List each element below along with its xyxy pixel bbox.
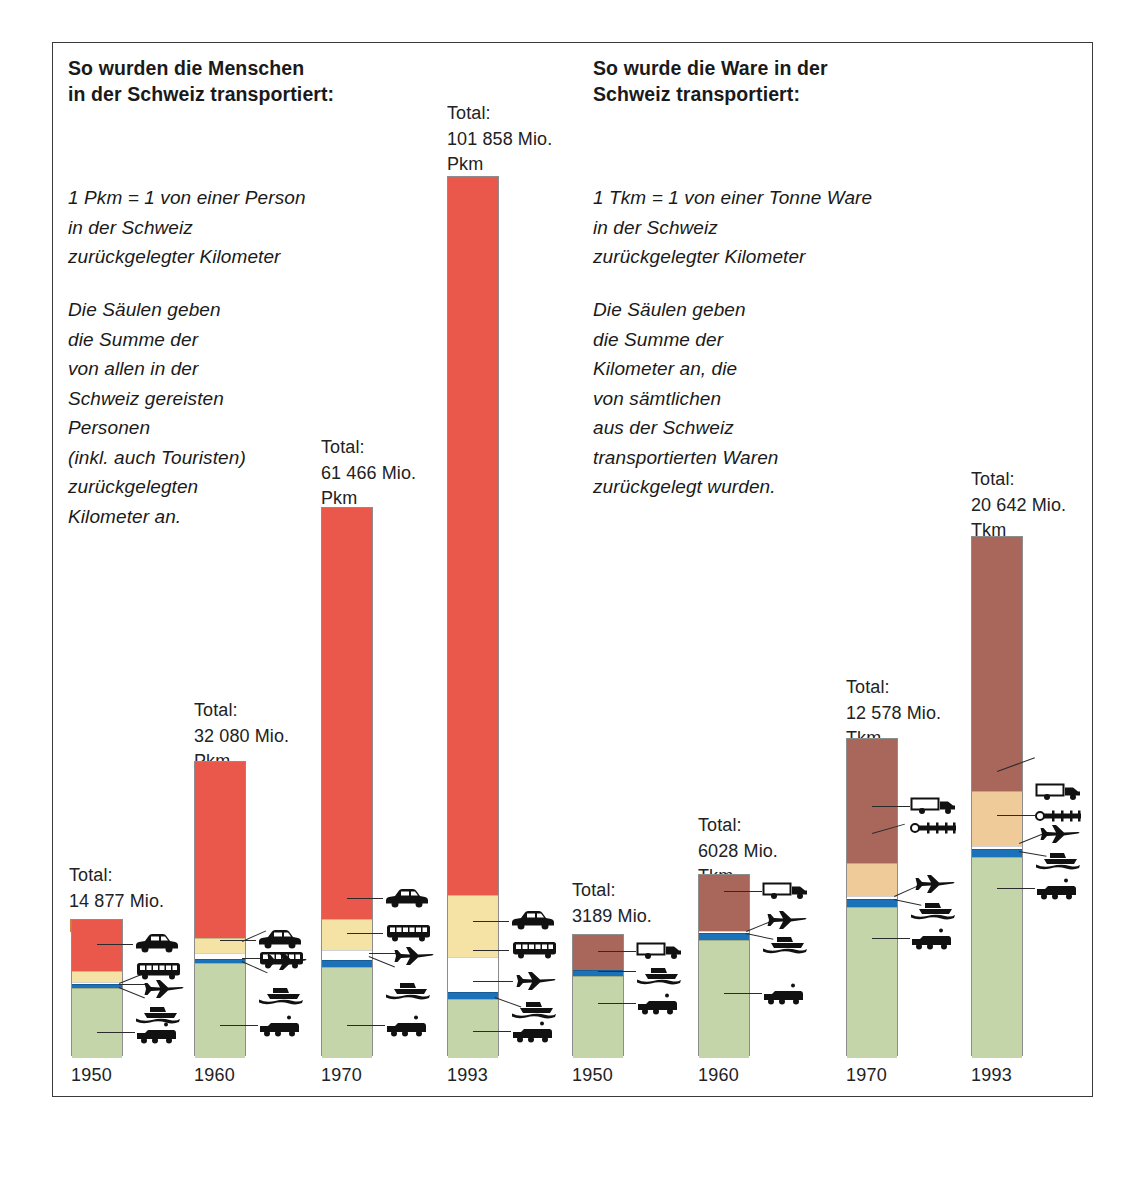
car-icon (135, 933, 179, 955)
train-icon (636, 993, 680, 1017)
segment-train (195, 963, 245, 1058)
segment-train (72, 988, 122, 1058)
segment-car (322, 508, 372, 919)
plane-icon (266, 948, 308, 972)
leader-line-car (97, 944, 133, 945)
figure-frame: So wurden die Menschen in der Schweiz tr… (52, 42, 1093, 1097)
leader-line-plane (473, 981, 513, 982)
right-panel-definition: 1 Tkm = 1 von einer Tonne Ware in der Sc… (593, 183, 1053, 272)
leader-line-truck (724, 891, 762, 892)
bar-tkm-1970 (846, 738, 898, 1056)
train-icon (135, 1022, 179, 1046)
segment-plane (448, 957, 498, 993)
segment-bus (448, 895, 498, 958)
leader-line-car (347, 898, 383, 899)
year-label-pkm-1970: 1970 (321, 1065, 362, 1086)
left-panel-explanation: Die Säulen geben die Summe der von allen… (68, 295, 488, 531)
plane-icon (515, 968, 557, 992)
total-label-pkm-1993: Total: 101 858 Mio. Pkm (447, 101, 552, 178)
car-icon (385, 888, 429, 910)
train-icon (385, 1015, 429, 1039)
truck-icon (910, 795, 958, 817)
bus-icon (511, 939, 559, 961)
boat-icon (910, 898, 956, 920)
leader-line-train (220, 1025, 258, 1026)
segment-train (322, 967, 372, 1058)
leader-line-pipeline (997, 815, 1035, 816)
leader-line-train (97, 1032, 135, 1033)
boat-icon (385, 978, 431, 1000)
year-label-tkm-1960: 1960 (698, 1065, 739, 1086)
plane-icon (143, 976, 185, 1000)
segment-car (448, 177, 498, 895)
leader-line-boat (598, 971, 636, 972)
segment-truck (699, 875, 749, 931)
truck-icon (636, 940, 684, 962)
leader-line-train (347, 1025, 385, 1026)
leader-line-truck (872, 806, 910, 807)
bar-pkm-1960 (194, 761, 246, 1056)
total-label-pkm-1970: Total: 61 466 Mio. Pkm (321, 435, 416, 512)
boat-icon (762, 932, 808, 954)
truck-icon (1035, 781, 1083, 803)
right-panel-explanation: Die Säulen geben die Summe der Kilometer… (593, 295, 1023, 502)
train-icon (762, 983, 806, 1007)
year-label-tkm-1950: 1950 (572, 1065, 613, 1086)
left-panel-heading: So wurden die Menschen in der Schweiz tr… (68, 55, 498, 107)
leader-line-train (724, 993, 762, 994)
bar-pkm-1970 (321, 507, 373, 1056)
boat-icon (258, 983, 304, 1005)
train-icon (1035, 878, 1079, 902)
bar-tkm-1993 (971, 536, 1023, 1056)
year-label-pkm-1960: 1960 (194, 1065, 235, 1086)
segment-car (195, 762, 245, 938)
bar-tkm-1960 (698, 874, 750, 1056)
leader-line-train (872, 938, 910, 939)
segment-train (847, 907, 897, 1058)
leader-line-bus (347, 933, 383, 934)
leader-line-car (220, 940, 256, 941)
plane-icon (766, 907, 808, 931)
segment-train (573, 976, 623, 1058)
leader-line-train (598, 1003, 636, 1004)
segment-truck (972, 537, 1022, 791)
train-icon (258, 1015, 302, 1039)
pipeline-icon (910, 820, 958, 836)
leader-line-car (473, 921, 509, 922)
leader-line-bus (473, 950, 509, 951)
right-panel-heading: So wurde die Ware in der Schweiz transpo… (593, 55, 1013, 107)
plane-icon (393, 943, 435, 967)
leader-line-truck (598, 951, 636, 952)
boat-icon (636, 963, 682, 985)
bar-tkm-1950 (572, 934, 624, 1056)
year-label-pkm-1993: 1993 (447, 1065, 488, 1086)
total-label-tkm-1993: Total: 20 642 Mio. Tkm (971, 467, 1066, 544)
year-label-tkm-1970: 1970 (846, 1065, 887, 1086)
boat-icon (511, 997, 557, 1019)
train-icon (511, 1021, 555, 1045)
leader-line-train (997, 888, 1035, 889)
truck-icon (762, 880, 810, 902)
year-label-pkm-1950: 1950 (71, 1065, 112, 1086)
plane-icon (1039, 821, 1081, 845)
plane-icon (914, 871, 956, 895)
year-label-tkm-1993: 1993 (971, 1065, 1012, 1086)
segment-pipeline (847, 863, 897, 897)
segment-truck (573, 935, 623, 970)
segment-bus (322, 919, 372, 951)
bus-icon (385, 922, 433, 944)
segment-pipeline (972, 791, 1022, 847)
boat-icon (1035, 848, 1081, 870)
segment-truck (847, 739, 897, 863)
bar-pkm-1993 (447, 176, 499, 1056)
segment-car (72, 920, 122, 971)
train-icon (910, 928, 954, 952)
leader-line-train (473, 1031, 511, 1032)
bar-pkm-1950 (71, 919, 123, 1056)
segment-train (699, 940, 749, 1058)
car-icon (511, 910, 555, 932)
boat-icon (135, 1002, 181, 1024)
segment-train (448, 999, 498, 1058)
